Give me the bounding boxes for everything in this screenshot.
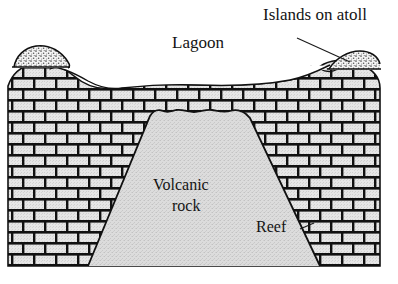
atoll-diagram: Islands on atoll Lagoon Volcanic rock Re… — [0, 0, 398, 284]
label-lagoon: Lagoon — [172, 33, 224, 52]
island-left — [12, 46, 70, 68]
islands-leader-line — [297, 38, 350, 62]
label-reef: Reef — [256, 218, 287, 235]
label-islands-on-atoll: Islands on atoll — [263, 5, 367, 24]
atoll-cross-section-figure: Islands on atoll Lagoon Volcanic rock Re… — [0, 0, 398, 284]
label-volcanic-rock-line2: rock — [172, 197, 200, 214]
label-volcanic-rock-line1: Volcanic — [153, 176, 209, 193]
island-right — [327, 51, 381, 70]
island-left-fill — [14, 46, 70, 68]
